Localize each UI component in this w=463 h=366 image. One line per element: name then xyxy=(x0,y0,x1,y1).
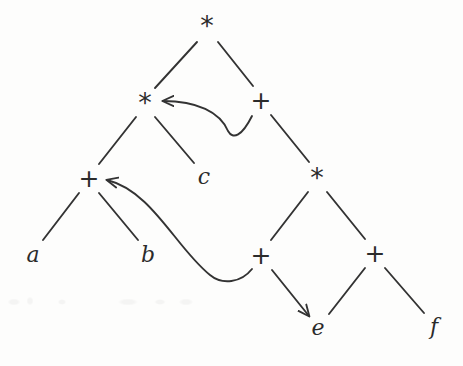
dag-edge xyxy=(107,180,252,281)
expression-dag-figure: **++*++abcef xyxy=(0,0,463,366)
dag-edge xyxy=(271,115,309,162)
dag-edge xyxy=(99,117,136,164)
dag-edge xyxy=(271,192,308,240)
dag-node-add-right: + xyxy=(251,88,272,113)
dag-node-leaf-a: a xyxy=(26,244,39,266)
dag-node-leaf-b: b xyxy=(141,244,155,266)
dag-node-root-mul: * xyxy=(200,12,214,39)
dag-edge xyxy=(385,268,424,313)
dag-edges-layer xyxy=(0,0,463,366)
dag-edge xyxy=(163,101,252,136)
dag-node-leaf-c: c xyxy=(198,166,210,188)
dag-edge xyxy=(155,117,194,163)
dag-node-mul-lower: * xyxy=(310,164,324,191)
dag-node-leaf-f: f xyxy=(430,316,438,338)
dag-edge xyxy=(327,192,365,239)
dag-node-add-lower-left: + xyxy=(251,243,272,268)
dag-edge xyxy=(329,268,365,314)
dag-node-mul-left: * xyxy=(138,89,152,116)
dag-edge xyxy=(155,42,197,88)
dag-edge xyxy=(272,270,309,316)
dag-edge xyxy=(218,42,253,86)
dag-node-add-ab: + xyxy=(79,166,100,191)
edge-group xyxy=(43,42,424,316)
dag-edge xyxy=(43,193,79,240)
dag-node-add-lower-right: + xyxy=(365,241,386,266)
dag-node-leaf-e: e xyxy=(311,317,324,339)
dag-edge xyxy=(99,193,138,240)
